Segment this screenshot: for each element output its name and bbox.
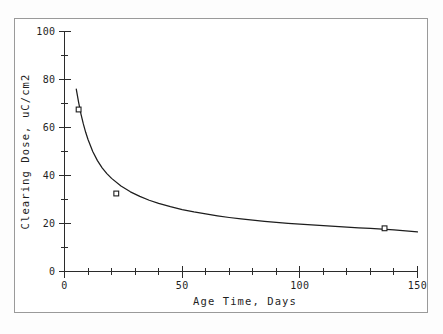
y-tick-label: 100 [36,26,55,37]
y-tick-label: 20 [43,218,56,229]
y-tick-label: 60 [43,122,56,133]
data-point-marker [382,226,387,231]
data-point-marker [76,107,81,112]
x-tick-label: 150 [408,280,427,291]
data-point-marker [114,191,119,196]
y-tick-label: 0 [49,266,55,277]
x-tick-label: 0 [61,280,67,291]
x-tick-label: 50 [176,280,189,291]
chart-plot: 020406080100050100150Age Time, DaysClear… [0,0,443,334]
figure-canvas: 020406080100050100150Age Time, DaysClear… [0,0,443,334]
fit-curve [76,89,417,232]
x-tick-label: 100 [290,280,309,291]
y-tick-label: 80 [43,74,56,85]
y-tick-label: 40 [43,170,56,181]
y-axis-title: Clearing Dose, uC/cm2 [19,74,31,230]
x-axis-title: Age Time, Days [193,295,297,307]
